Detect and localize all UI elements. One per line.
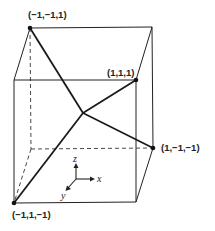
bond-to-top-back-left bbox=[30, 28, 83, 113]
axis-label-x: x bbox=[96, 173, 102, 184]
label-bottom-back-right: (1,−1,−1) bbox=[161, 142, 200, 153]
back-bottom-edge bbox=[31, 148, 153, 149]
back-right-vertical-edge bbox=[152, 27, 153, 148]
vertex-dot-top-front-right bbox=[134, 78, 139, 83]
label-bottom-front-left: (−1,1,−1) bbox=[12, 209, 51, 220]
top-left-depth-edge bbox=[14, 28, 30, 80]
axis-label-z: z bbox=[72, 153, 77, 164]
bottom-right-depth-edge bbox=[136, 148, 153, 202]
vertex-dot-top-back-left bbox=[28, 26, 33, 31]
back-left-vertical-edge bbox=[30, 28, 31, 149]
top-right-depth-edge bbox=[136, 27, 152, 80]
y-axis-arrow bbox=[68, 179, 76, 188]
vertex-dot-bottom-back-right bbox=[151, 146, 156, 151]
axis-label-y: y bbox=[60, 190, 66, 201]
bonds bbox=[14, 28, 153, 203]
cube-diagram: (−1,−1,1) (1,1,1) (1,−1,−1) (−1,1,−1) z … bbox=[0, 0, 215, 231]
label-top-front-right: (1,1,1) bbox=[107, 67, 134, 78]
back-top-edge bbox=[30, 27, 152, 28]
axis-indicator bbox=[66, 163, 96, 191]
bond-to-bottom-back-right bbox=[83, 113, 153, 148]
vertex-dot-bottom-front-left bbox=[12, 201, 17, 206]
bond-to-top-front-right bbox=[83, 80, 136, 113]
bottom-left-depth-edge bbox=[14, 149, 31, 203]
label-top-back-left: (−1,−1,1) bbox=[28, 9, 67, 20]
x-arrowhead-icon bbox=[90, 177, 95, 182]
front-bottom-edge bbox=[14, 202, 136, 203]
